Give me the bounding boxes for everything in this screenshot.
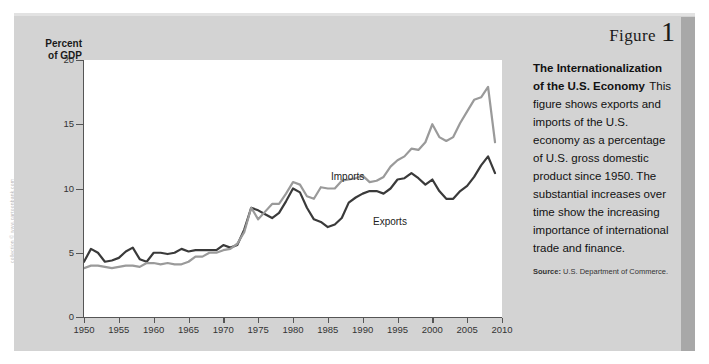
caption-column: Figure1 The Internationalization of the … bbox=[533, 18, 675, 277]
x-tick-label: 2010 bbox=[485, 324, 519, 335]
y-tick bbox=[76, 189, 84, 190]
panel-right-shadow bbox=[681, 17, 695, 351]
x-tick-label: 1965 bbox=[172, 324, 206, 335]
x-tick bbox=[363, 318, 364, 323]
x-tick bbox=[223, 318, 224, 323]
caption-source: Source: U.S. Department of Commerce. bbox=[533, 267, 675, 277]
caption-title: The Internationalization of the U.S. Eco… bbox=[533, 62, 662, 92]
x-tick-label: 2000 bbox=[415, 324, 449, 335]
x-tick bbox=[398, 318, 399, 323]
watermark-strip: collection © www.cartoonbank.com bbox=[0, 0, 14, 364]
x-tick-label: 2005 bbox=[450, 324, 484, 335]
source-text: U.S. Department of Commerce. bbox=[563, 267, 668, 276]
x-tick bbox=[502, 318, 503, 323]
figure-root: collection © www.cartoonbank.com Percent… bbox=[0, 0, 709, 364]
y-tick bbox=[76, 253, 84, 254]
series-svg bbox=[84, 60, 502, 317]
y-tick-label: 20 bbox=[18, 54, 74, 65]
y-tick bbox=[76, 60, 84, 61]
x-tick bbox=[258, 318, 259, 323]
figure-label: Figure bbox=[609, 26, 656, 45]
plot-area bbox=[84, 60, 502, 317]
x-tick bbox=[119, 318, 120, 323]
x-tick bbox=[432, 318, 433, 323]
x-tick-label: 1995 bbox=[381, 324, 415, 335]
y-tick-label: 0 bbox=[18, 311, 74, 322]
x-tick-label: 1960 bbox=[137, 324, 171, 335]
figure-number: 1 bbox=[661, 16, 675, 47]
x-tick-label: 1985 bbox=[311, 324, 345, 335]
chart: Percent of GDP 05101520 1950195519601965… bbox=[18, 18, 518, 323]
caption-text-block: The Internationalization of the U.S. Eco… bbox=[533, 58, 675, 256]
y-tick-label: 10 bbox=[18, 183, 74, 194]
x-tick bbox=[467, 318, 468, 323]
x-tick-label: 1990 bbox=[346, 324, 380, 335]
series-line-exports bbox=[84, 156, 495, 261]
x-tick-label: 1980 bbox=[276, 324, 310, 335]
x-tick bbox=[189, 318, 190, 323]
y-tick bbox=[76, 124, 84, 125]
x-tick bbox=[328, 318, 329, 323]
series-label-imports: Imports bbox=[331, 171, 364, 182]
y-tick-label: 15 bbox=[18, 118, 74, 129]
figure-heading: Figure1 bbox=[533, 18, 675, 46]
series-label-exports: Exports bbox=[373, 216, 407, 227]
panel-top-highlight bbox=[14, 13, 695, 16]
caption-body: This figure shows exports and imports of… bbox=[533, 80, 671, 254]
x-tick bbox=[293, 318, 294, 323]
source-label: Source: bbox=[533, 267, 561, 276]
y-axis-title-line1: Percent bbox=[30, 38, 82, 50]
y-tick-label: 5 bbox=[18, 247, 74, 258]
series-line-imports bbox=[84, 87, 495, 268]
x-tick bbox=[154, 318, 155, 323]
y-tick bbox=[76, 317, 84, 318]
x-tick-label: 1955 bbox=[102, 324, 136, 335]
x-tick-label: 1975 bbox=[241, 324, 275, 335]
x-tick bbox=[84, 318, 85, 323]
x-tick-label: 1970 bbox=[206, 324, 240, 335]
x-tick-label: 1950 bbox=[67, 324, 101, 335]
